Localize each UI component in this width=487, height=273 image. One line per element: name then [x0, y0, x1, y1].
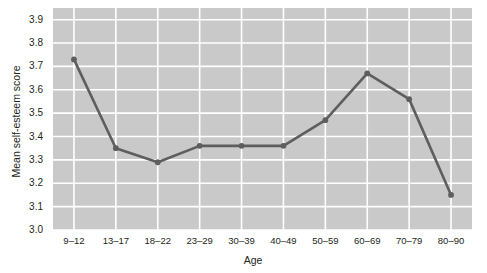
data-point-marker: [155, 159, 161, 165]
chart-figure: Mean self-esteem score 3.03.13.23.33.43.…: [0, 0, 487, 273]
data-point-marker: [406, 96, 412, 102]
y-axis-tick-label: 3.9: [29, 15, 43, 25]
y-axis-tick-label: 3.8: [29, 38, 43, 48]
y-axis-tick-label: 3.4: [29, 132, 43, 142]
data-point-markers: [71, 57, 454, 198]
y-axis-tick-label: 3.5: [29, 108, 43, 118]
plot-area: [53, 8, 472, 230]
data-point-marker: [281, 143, 287, 149]
data-point-marker: [71, 57, 77, 63]
y-axis-tick-labels: 3.03.13.23.33.43.53.63.73.83.9: [0, 0, 55, 273]
y-axis-tick-label: 3.1: [29, 202, 43, 212]
y-axis-tick-label: 3.7: [29, 61, 43, 71]
data-point-marker: [448, 192, 454, 198]
data-point-marker: [364, 71, 370, 77]
data-point-marker: [322, 117, 328, 123]
data-point-marker: [113, 145, 119, 151]
y-axis-tick-label: 3.3: [29, 155, 43, 165]
data-point-marker: [239, 143, 245, 149]
data-line-mean-self-esteem: [74, 59, 451, 195]
y-axis-tick-label: 3.2: [29, 178, 43, 188]
y-axis-tick-label: 3.0: [29, 225, 43, 235]
x-axis-label: Age: [33, 254, 473, 266]
data-point-marker: [197, 143, 203, 149]
vertical-gridlines: [74, 8, 451, 230]
x-axis-tick-label: 80–90: [421, 235, 481, 247]
x-axis-tick-labels: 9–1213–1718–2223–2930–3940–4950–5960–697…: [0, 235, 487, 251]
line-chart-svg: [53, 8, 472, 230]
y-axis-tick-label: 3.6: [29, 85, 43, 95]
